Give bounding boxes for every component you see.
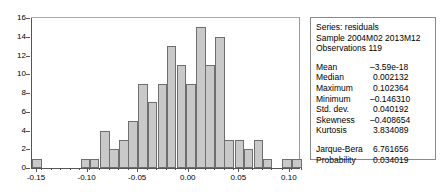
x-axis-minor-tick: [301, 168, 302, 170]
series-name-line: Series: residuals: [316, 22, 435, 33]
x-axis-major-tick: [188, 168, 189, 172]
y-axis-tick-label: 14: [17, 33, 26, 41]
x-axis-minor-tick: [156, 168, 157, 170]
stat-label: Maximum: [316, 83, 373, 94]
stat-value: 0.034019: [373, 155, 431, 166]
stat-value: 0.002132: [373, 72, 431, 83]
histogram-chart: 1614121086420 -0.15-0.10-0.050.000.050.1…: [0, 0, 302, 192]
stat-row: Skewness–0.408654: [316, 115, 435, 126]
y-axis-tick-mark: [26, 168, 30, 169]
statistics-panel: Series: residuals Sample 2004M02 2013M12…: [310, 17, 436, 160]
x-axis-minor-tick: [214, 168, 215, 170]
x-axis-tick-label: 0.10: [269, 173, 309, 183]
x-axis-minor-tick: [233, 168, 234, 170]
plot-area: [31, 18, 300, 169]
x-axis-tick-label: -0.05: [117, 173, 157, 183]
y-axis-tick-mark: [26, 112, 30, 113]
panel-spacer-1: [316, 54, 435, 62]
histogram-bars: [32, 18, 300, 168]
observations-line: Observations 119: [316, 43, 435, 54]
stat-label: Probability: [316, 155, 373, 166]
x-axis-minor-tick: [147, 168, 148, 170]
y-axis-tick-label: 16: [17, 14, 26, 22]
x-axis-minor-tick: [252, 168, 253, 170]
x-axis-minor-tick: [282, 168, 283, 170]
stat-label: Skewness: [316, 115, 373, 126]
stat-label: Median: [316, 72, 373, 83]
x-axis-minor-tick: [224, 168, 225, 170]
histogram-bar: [282, 159, 292, 168]
sample-range-line: Sample 2004M02 2013M12: [316, 33, 435, 44]
x-axis-major-tick: [137, 168, 138, 172]
x-axis-major-tick: [238, 168, 239, 172]
histogram-bar: [186, 84, 196, 168]
x-axis-minor-tick: [99, 168, 100, 170]
stat-value: –0.408654: [373, 115, 431, 126]
x-axis-major-tick: [289, 168, 290, 172]
test-row: Jarque-Bera6.761656: [316, 144, 435, 155]
y-axis-tick-label: 10: [17, 70, 26, 78]
histogram-bar: [292, 159, 302, 168]
x-axis-tick-label: -0.15: [16, 173, 56, 183]
y-axis-tick-mark: [26, 56, 30, 57]
x-axis-major-tick: [87, 168, 88, 172]
x-axis: -0.15-0.10-0.050.000.050.10: [0, 173, 302, 187]
histogram-bar: [128, 121, 138, 168]
histogram-bar: [205, 65, 215, 168]
y-axis-tick-mark: [26, 149, 30, 150]
x-axis-minor-tick: [262, 168, 263, 170]
x-axis-minor-tick: [291, 168, 292, 170]
stat-row: Median0.002132: [316, 72, 435, 83]
x-axis-major-tick: [36, 168, 37, 172]
x-axis-minor-tick: [205, 168, 206, 170]
x-axis-minor-tick: [89, 168, 90, 170]
stat-label: Mean: [316, 62, 373, 73]
x-axis-tick-label: 0.00: [168, 173, 208, 183]
x-axis-minor-tick: [175, 168, 176, 170]
descriptive-stats-list: Mean–3.59e-18Median0.002132Maximum0.1023…: [316, 62, 435, 136]
x-axis-minor-tick: [79, 168, 80, 170]
x-axis-minor-tick: [118, 168, 119, 170]
x-axis-minor-tick: [271, 168, 272, 170]
histogram-bar: [167, 46, 177, 168]
stat-row: Mean–3.59e-18: [316, 62, 435, 73]
x-axis-minor-tick: [109, 168, 110, 170]
test-row: Probability0.034019: [316, 155, 435, 166]
x-axis-tick-label: -0.10: [67, 173, 107, 183]
panel-spacer-2: [316, 136, 435, 144]
stat-value: 0.102364: [373, 83, 431, 94]
histogram-bar: [263, 159, 273, 168]
histogram-bar: [244, 149, 254, 168]
stat-value: 3.834089: [373, 125, 431, 136]
x-axis-minor-tick: [243, 168, 244, 170]
stat-label: Jarque-Bera: [316, 144, 373, 155]
x-axis-minor-tick: [195, 168, 196, 170]
stat-row: Minimum–0.146310: [316, 94, 435, 105]
stat-label: Kurtosis: [316, 125, 373, 136]
stat-label: Std. dev.: [316, 104, 373, 115]
stat-row: Maximum0.102364: [316, 83, 435, 94]
stat-value: 0.040192: [373, 104, 431, 115]
histogram-bar: [109, 149, 119, 168]
y-axis-tick-mark: [26, 18, 30, 19]
x-axis-minor-tick: [166, 168, 167, 170]
stat-row: Kurtosis3.834089: [316, 125, 435, 136]
x-axis-tick-label: 0.05: [218, 173, 258, 183]
histogram-bar: [32, 159, 42, 168]
y-axis-tick-label: 12: [17, 52, 26, 60]
y-axis: 1614121086420: [0, 0, 26, 192]
normality-test-list: Jarque-Bera6.761656Probability0.034019: [316, 144, 435, 165]
histogram-bar: [224, 140, 234, 168]
stat-label: Minimum: [316, 94, 373, 105]
y-axis-tick-mark: [26, 131, 30, 132]
y-axis-tick-mark: [26, 74, 30, 75]
x-axis-minor-tick: [60, 168, 61, 170]
x-axis-minor-tick: [185, 168, 186, 170]
stat-value: 6.761656: [373, 144, 431, 155]
x-axis-minor-tick: [70, 168, 71, 170]
histogram-bar: [90, 159, 100, 168]
y-axis-tick-mark: [26, 37, 30, 38]
histogram-bar: [148, 102, 158, 168]
x-axis-minor-tick: [51, 168, 52, 170]
x-axis-minor-tick: [128, 168, 129, 170]
